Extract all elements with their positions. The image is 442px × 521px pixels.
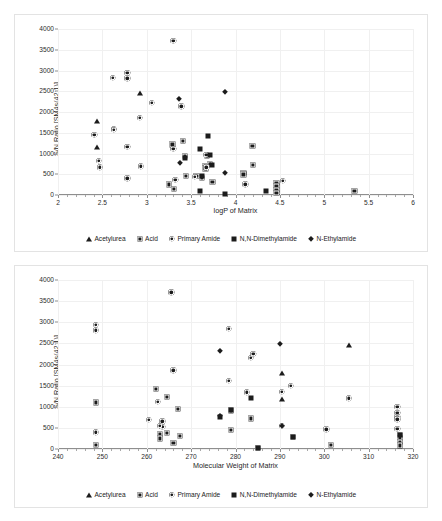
data-point-circle [248,355,253,360]
x-axis-minor-tick [333,449,334,451]
x-axis-minor-tick [227,195,228,197]
gridline-vertical [191,280,192,449]
legend-item[interactable]: Acid [137,491,158,498]
data-point-filled-square [229,408,234,413]
data-point-circle [251,351,256,356]
gridline-vertical [324,29,325,195]
gridline-vertical [369,280,370,449]
x-axis-minor-tick [307,449,308,451]
x-axis-minor-tick [156,449,157,451]
data-point-shaded-square [164,395,169,400]
filled-square-marker [231,236,237,242]
x-axis-tick-mark [58,195,59,198]
legend-item[interactable]: N-Ethylamide [308,235,356,242]
data-point-shaded-square [274,187,279,192]
data-point-shaded-square [251,162,256,167]
data-point-circle [111,126,116,131]
gridline-vertical [280,29,281,195]
gridline-vertical [58,29,59,195]
x-axis-tick-mark [191,195,192,198]
legend-item[interactable]: N,N-Dimethylamide [231,491,297,498]
data-point-circle [171,38,176,43]
x-axis-minor-tick [271,195,272,197]
x-axis-minor-tick [85,449,86,451]
legend-item-label: Primary Amide [177,491,220,498]
data-point-circle [125,76,130,81]
gridline-vertical [147,280,148,449]
data-point-circle [395,417,400,422]
data-point-shaded-square [153,386,158,391]
data-point-circle [395,414,400,419]
x-axis-minor-tick [218,195,219,197]
x-axis-minor-tick [253,195,254,197]
data-point-shaded-square [164,430,169,435]
legend-item[interactable]: Acid [137,235,158,242]
x-axis-minor-tick [404,195,405,197]
data-point-circle [204,164,209,169]
x-axis-tick-label: 3.5 [187,200,196,207]
x-axis-minor-tick [253,449,254,451]
data-point-circle [244,389,249,394]
data-point-filled-square [182,156,187,161]
x-axis-minor-tick [244,449,245,451]
data-point-triangle [94,145,100,150]
x-axis-minor-tick [120,195,121,197]
diamond-marker [308,236,314,242]
legend-item[interactable]: Acetylurea [86,491,126,498]
diamond-marker [308,492,314,498]
legend-item[interactable]: Primary Amide [169,491,220,498]
triangle-marker [86,492,92,498]
x-axis-minor-tick [404,449,405,451]
data-point-shaded-square [274,180,279,185]
legend-item[interactable]: Acetylurea [86,235,126,242]
data-point-shaded-square [203,164,208,169]
x-axis-tick-mark [280,195,281,198]
x-axis-tick-label: 4.5 [275,200,284,207]
x-axis-minor-tick [307,195,308,197]
x-axis-tick-label: 4 [234,200,238,207]
x-axis-minor-tick [227,449,228,451]
data-point-circle [110,75,115,80]
x-axis-minor-tick [76,195,77,197]
data-point-shaded-square [199,175,204,180]
x-axis-minor-tick [129,195,130,197]
x-axis-minor-tick [200,449,201,451]
x-axis-tick-mark [324,195,325,198]
data-point-filled-square [205,134,210,139]
x-axis-minor-tick [351,195,352,197]
x-axis-tick-label: 310 [363,454,374,461]
data-point-shaded-square [248,416,253,421]
x-axis-minor-tick [67,449,68,451]
x-axis-minor-tick [395,449,396,451]
x-axis-tick-label: 300 [319,454,330,461]
x-axis-minor-tick [200,195,201,197]
data-point-shaded-square [228,408,233,413]
legend-item[interactable]: N-Ethylamide [308,491,356,498]
x-axis-minor-tick [244,195,245,197]
gridline-vertical [324,280,325,449]
data-point-circle [179,103,184,108]
x-axis-minor-tick [94,195,95,197]
x-axis-minor-tick [271,449,272,451]
x-axis-minor-tick [351,449,352,451]
x-axis-minor-tick [218,449,219,451]
legend-item-label: N,N-Dimethylamide [240,491,297,498]
x-axis-minor-tick [209,195,210,197]
data-point-circle [96,158,101,163]
data-point-filled-square [249,396,254,401]
legend-item-label: Acid [145,491,158,498]
gridline-vertical [191,29,192,195]
x-axis-minor-tick [156,195,157,197]
data-point-shaded-square [210,180,215,185]
legend-item-label: Acid [145,235,158,242]
panel-b-plot-area: 0500100015002000250030003500400024025026… [58,280,413,449]
gridline-vertical [236,29,237,195]
panel-b-legend: AcetylureaAcidPrimary AmideN,N-Dimethyla… [15,491,427,498]
x-axis-minor-tick [289,195,290,197]
legend-item[interactable]: Primary Amide [169,235,220,242]
circle-marker [169,492,175,498]
x-axis-minor-tick [138,195,139,197]
x-axis-minor-tick [298,449,299,451]
legend-item[interactable]: N,N-Dimethylamide [231,235,297,242]
x-axis-tick-mark [413,449,414,452]
